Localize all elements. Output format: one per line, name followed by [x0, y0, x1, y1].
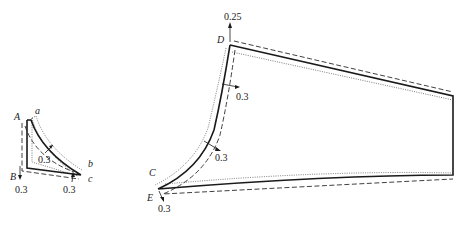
allowance-bottom-right: 0.3 [63, 184, 76, 195]
label-point-c: c [88, 173, 93, 184]
allowance-bottom: 0.3 [158, 203, 171, 214]
arrow-head [18, 175, 22, 180]
large-piece-dotted-outline [155, 48, 453, 185]
allowance-lower-curve: 0.3 [215, 152, 228, 163]
large-pattern-piece: 0.25 D 0.3 0.3 C E 0.3 [146, 11, 453, 214]
label-point-E: E [146, 192, 153, 203]
small-piece-solid-outline [27, 120, 81, 175]
small-pattern-piece: A a b c B 0.3 0.3 0.3 [10, 105, 93, 195]
allowance-top: 0.25 [224, 11, 242, 22]
label-point-A: A [13, 111, 21, 122]
pattern-diagram: A a b c B 0.3 0.3 0.3 0.25 D 0.3 0.3 C E… [0, 0, 465, 227]
label-point-C: C [149, 167, 156, 178]
small-piece-dotted-outline [32, 116, 82, 176]
arrow-head [228, 22, 232, 28]
allowance-inner: 0.3 [38, 154, 51, 165]
arrow-head [235, 85, 240, 89]
label-point-a: a [35, 105, 40, 116]
arrow-head [160, 197, 164, 202]
label-point-B: B [10, 171, 16, 182]
allowance-bottom-left: 0.3 [15, 184, 28, 195]
label-point-b: b [88, 158, 93, 169]
large-piece-dashed-outline [163, 41, 453, 194]
arrow-head [215, 147, 221, 151]
large-piece-solid-outline [158, 45, 453, 189]
allowance-upper-curve: 0.3 [236, 91, 249, 102]
label-point-D: D [216, 34, 225, 45]
